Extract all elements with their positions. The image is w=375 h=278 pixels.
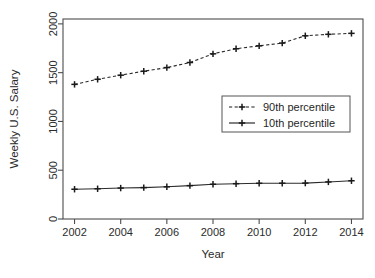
x-axis-title: Year bbox=[201, 248, 224, 260]
y-tick-label: 1000 bbox=[47, 109, 59, 133]
x-tick-label: 2006 bbox=[155, 226, 179, 238]
legend-label[interactable]: 90th percentile bbox=[263, 101, 335, 113]
x-tick-label: 2008 bbox=[201, 226, 225, 238]
chart-legend[interactable]: 90th percentile10th percentile bbox=[222, 96, 350, 132]
legend-label[interactable]: 10th percentile bbox=[263, 117, 335, 129]
y-tick-label: 500 bbox=[47, 161, 59, 179]
x-tick-label: 2012 bbox=[293, 226, 317, 238]
x-tick-label: 2014 bbox=[339, 226, 363, 238]
series-10th bbox=[71, 178, 354, 193]
chart-figure: 0500100015002000200220042006200820102012… bbox=[0, 0, 375, 278]
series-90th bbox=[71, 30, 354, 87]
series-path bbox=[75, 33, 352, 84]
x-tick-label: 2004 bbox=[108, 226, 132, 238]
line-chart: 0500100015002000200220042006200820102012… bbox=[0, 0, 375, 278]
y-tick-label: 1500 bbox=[47, 60, 59, 84]
x-tick-label: 2010 bbox=[247, 226, 271, 238]
y-tick-label: 2000 bbox=[47, 12, 59, 36]
x-tick-label: 2002 bbox=[62, 226, 86, 238]
y-axis-title: Weekly U.S. Salary bbox=[8, 69, 20, 168]
y-tick-label: 0 bbox=[47, 216, 59, 222]
